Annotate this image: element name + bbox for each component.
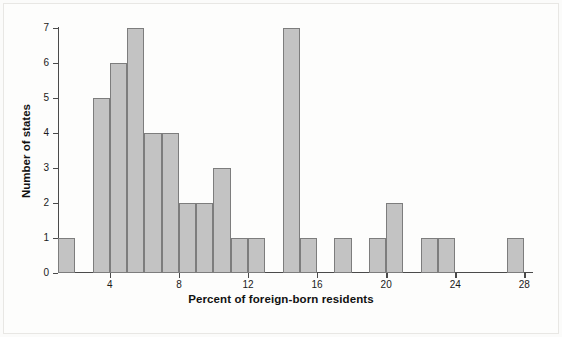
y-tick-label: 2 bbox=[31, 197, 49, 208]
histogram-bar bbox=[58, 238, 75, 273]
histogram-bar bbox=[127, 28, 144, 273]
histogram-bar bbox=[300, 238, 317, 273]
x-tick-mark bbox=[248, 273, 249, 278]
plot-area: 01234567 481216202428 Number of states P… bbox=[0, 0, 562, 337]
histogram-bar bbox=[110, 63, 127, 273]
y-tick-mark bbox=[53, 203, 58, 204]
histogram-bar bbox=[162, 133, 179, 273]
y-axis-title: Number of states bbox=[20, 61, 32, 241]
x-tick-mark bbox=[386, 273, 387, 278]
y-tick-mark bbox=[53, 273, 58, 274]
y-tick-mark bbox=[53, 168, 58, 169]
x-tick-label: 8 bbox=[167, 279, 191, 290]
histogram-bar bbox=[213, 168, 230, 273]
y-tick-mark bbox=[53, 133, 58, 134]
histogram-bar bbox=[507, 238, 524, 273]
y-tick-mark bbox=[53, 63, 58, 64]
histogram-bar bbox=[334, 238, 351, 273]
histogram-bar bbox=[179, 203, 196, 273]
x-tick-label: 4 bbox=[98, 279, 122, 290]
x-tick-label: 16 bbox=[305, 279, 329, 290]
histogram-figure: 01234567 481216202428 Number of states P… bbox=[0, 0, 562, 337]
x-axis-title: Percent of foreign-born residents bbox=[0, 293, 562, 305]
y-tick-label: 3 bbox=[31, 162, 49, 173]
histogram-bar bbox=[438, 238, 455, 273]
histogram-bar bbox=[283, 28, 300, 273]
y-tick-label: 4 bbox=[31, 127, 49, 138]
x-tick-mark bbox=[179, 273, 180, 278]
y-tick-mark bbox=[53, 98, 58, 99]
histogram-bar bbox=[196, 203, 213, 273]
histogram-bar bbox=[369, 238, 386, 273]
x-tick-mark bbox=[524, 273, 525, 278]
x-tick-label: 12 bbox=[236, 279, 260, 290]
histogram-bar bbox=[248, 238, 265, 273]
x-tick-mark bbox=[317, 273, 318, 278]
x-tick-label: 28 bbox=[512, 279, 536, 290]
y-tick-label: 1 bbox=[31, 232, 49, 243]
y-tick-mark bbox=[53, 28, 58, 29]
histogram-bar bbox=[231, 238, 248, 273]
y-axis-line bbox=[58, 27, 59, 273]
histogram-bar bbox=[421, 238, 438, 273]
x-tick-label: 24 bbox=[443, 279, 467, 290]
y-tick-label: 5 bbox=[31, 92, 49, 103]
y-tick-label: 0 bbox=[31, 267, 49, 278]
x-tick-label: 20 bbox=[374, 279, 398, 290]
histogram-bar bbox=[386, 203, 403, 273]
histogram-bar bbox=[144, 133, 161, 273]
histogram-bar bbox=[93, 98, 110, 273]
x-tick-mark bbox=[110, 273, 111, 278]
x-tick-mark bbox=[455, 273, 456, 278]
y-tick-label: 7 bbox=[31, 22, 49, 33]
y-tick-label: 6 bbox=[31, 57, 49, 68]
